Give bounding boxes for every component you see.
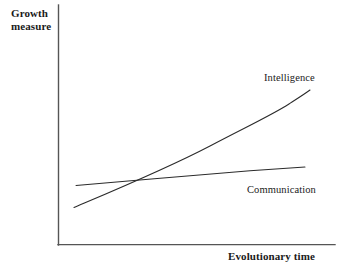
series-line-communication <box>76 167 305 186</box>
series-label-communication: Communication <box>247 184 316 195</box>
plot-area <box>0 0 342 270</box>
chart-figure: Growthmeasure Intelligence Communication… <box>0 0 342 270</box>
series-label-intelligence: Intelligence <box>264 72 315 83</box>
x-axis-title: Evolutionary time <box>228 250 315 263</box>
